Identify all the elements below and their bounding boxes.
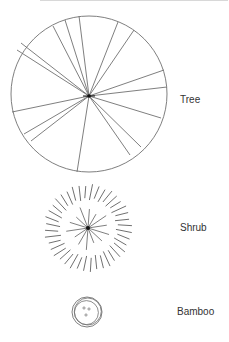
tree-label: Tree	[180, 94, 200, 105]
plant-symbol-legend	[0, 0, 229, 342]
bamboo-symbol-icon	[72, 297, 102, 327]
shrub-symbol-icon	[45, 184, 132, 272]
shrub-label: Shrub	[180, 222, 207, 233]
bamboo-label: Bamboo	[177, 306, 214, 317]
tree-symbol-icon	[11, 16, 167, 172]
